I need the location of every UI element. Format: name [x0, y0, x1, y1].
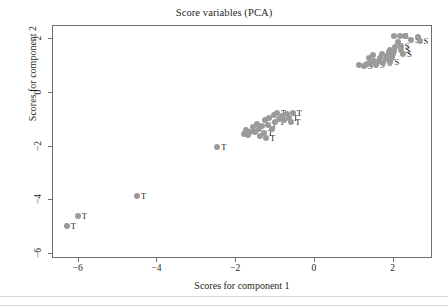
y-tick — [48, 146, 52, 147]
x-tick — [393, 258, 394, 262]
x-tick — [156, 258, 157, 262]
x-tick-label: −6 — [73, 263, 83, 273]
data-point-t — [214, 144, 220, 150]
data-point-s — [400, 51, 406, 57]
chart-root: Score variables (PCA) SSSSSSSSSSSSTTTTTT… — [0, 0, 448, 308]
data-point-s — [391, 33, 397, 39]
point-label-t: T — [71, 222, 76, 231]
data-point-s — [417, 38, 423, 44]
scatter-plot-area: SSSSSSSSSSSSTTTTTTTTTTTTT — [53, 26, 431, 257]
plot-frame: SSSSSSSSSSSSTTTTTTTTTTTTT — [52, 25, 432, 258]
point-label-s: S — [394, 58, 399, 67]
y-tick — [48, 38, 52, 39]
y-tick-label: −4 — [33, 194, 43, 204]
x-tick-label: −2 — [230, 263, 240, 273]
data-point-t — [75, 213, 81, 219]
x-tick-label: 0 — [311, 263, 316, 273]
point-label-t: T — [297, 109, 302, 118]
point-label-s: S — [424, 37, 429, 46]
x-tick-label: −4 — [151, 263, 161, 273]
point-label-t: T — [221, 143, 226, 152]
y-tick — [48, 92, 52, 93]
x-tick — [235, 258, 236, 262]
data-point-t — [269, 126, 275, 132]
point-label-t: T — [270, 134, 275, 143]
page-divider-top — [0, 296, 448, 297]
x-axis-title: Scores for component 1 — [52, 280, 432, 291]
point-label-t: T — [82, 212, 87, 221]
y-tick — [48, 199, 52, 200]
point-label-t: T — [295, 118, 300, 127]
x-tick — [314, 258, 315, 262]
x-tick — [78, 258, 79, 262]
point-label-t: T — [141, 192, 146, 201]
data-point-t — [263, 135, 269, 141]
y-tick-label: −6 — [33, 248, 43, 258]
point-label-s: S — [407, 50, 412, 59]
data-point-t — [64, 223, 70, 229]
page-title: Score variables (PCA) — [0, 7, 448, 18]
data-point-s — [408, 37, 414, 43]
x-tick-label: 2 — [390, 263, 395, 273]
data-point-t — [288, 119, 294, 125]
y-axis-title: Scores for component 2 — [27, 0, 38, 169]
y-tick — [48, 253, 52, 254]
page-divider-bottom — [0, 305, 448, 306]
data-point-t — [134, 193, 140, 199]
